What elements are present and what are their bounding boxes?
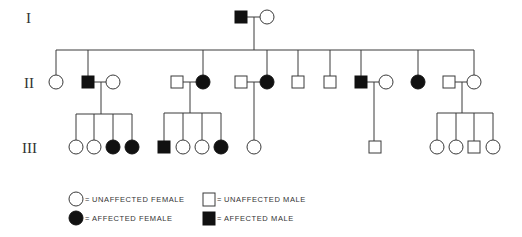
- unaffected-female-symbol: [87, 140, 101, 154]
- unaffected-male-symbol: [443, 76, 455, 88]
- legend-item-affected-female: = AFFECTED FEMALE: [69, 211, 173, 225]
- legend-separator: =: [85, 214, 90, 223]
- affected-female-symbol: [69, 211, 83, 225]
- pedigree-lines: [56, 17, 493, 141]
- generation-II: [49, 75, 481, 89]
- unaffected-female-symbol: [49, 75, 63, 89]
- unaffected-female-symbol: [247, 140, 261, 154]
- unaffected-male-symbol: [203, 193, 215, 206]
- unaffected-female-symbol: [379, 75, 393, 89]
- unaffected-female-symbol: [69, 140, 83, 154]
- affected-male-symbol: [203, 212, 215, 225]
- unaffected-female-symbol: [69, 192, 83, 206]
- legend-separator: =: [217, 214, 222, 223]
- unaffected-male-symbol: [369, 141, 381, 153]
- pedigree-svg: I II III: [0, 0, 522, 237]
- unaffected-female-symbol: [486, 140, 500, 154]
- unaffected-male-symbol: [235, 76, 247, 88]
- legend-item-unaffected-female: = UNAFFECTED FEMALE: [69, 192, 185, 206]
- legend-separator: =: [85, 195, 90, 204]
- affected-female-symbol: [106, 140, 120, 154]
- affected-female-symbol: [214, 140, 228, 154]
- affected-female-symbol: [260, 75, 274, 89]
- affected-male-symbol: [158, 141, 170, 153]
- pedigree-diagram: I II III: [0, 0, 522, 237]
- affected-male-symbol: [82, 76, 94, 88]
- affected-female-symbol: [196, 75, 210, 89]
- affected-male-symbol: [235, 11, 247, 23]
- unaffected-female-symbol: [195, 140, 209, 154]
- legend-label: AFFECTED FEMALE: [92, 214, 173, 223]
- unaffected-male-symbol: [171, 76, 183, 88]
- unaffected-female-symbol: [106, 75, 120, 89]
- legend-item-affected-male: = AFFECTED MALE: [203, 212, 294, 225]
- legend: = UNAFFECTED FEMALE = UNAFFECTED MALE = …: [69, 192, 306, 225]
- generation-label-III: III: [22, 140, 37, 156]
- unaffected-female-symbol: [260, 10, 274, 24]
- generation-III: [69, 140, 500, 154]
- unaffected-male-symbol: [468, 141, 480, 153]
- unaffected-female-symbol: [449, 140, 463, 154]
- affected-male-symbol: [355, 76, 367, 88]
- legend-separator: =: [217, 195, 222, 204]
- unaffected-male-symbol: [324, 76, 336, 88]
- legend-label: UNAFFECTED FEMALE: [92, 195, 185, 204]
- legend-item-unaffected-male: = UNAFFECTED MALE: [203, 193, 306, 206]
- affected-female-symbol: [411, 75, 425, 89]
- generation-label-I: I: [26, 10, 31, 26]
- unaffected-male-symbol: [292, 76, 304, 88]
- legend-label: UNAFFECTED MALE: [224, 195, 306, 204]
- unaffected-female-symbol: [467, 75, 481, 89]
- legend-label: AFFECTED MALE: [224, 214, 294, 223]
- unaffected-female-symbol: [430, 140, 444, 154]
- affected-female-symbol: [125, 140, 139, 154]
- generation-label-II: II: [24, 75, 34, 91]
- unaffected-female-symbol: [176, 140, 190, 154]
